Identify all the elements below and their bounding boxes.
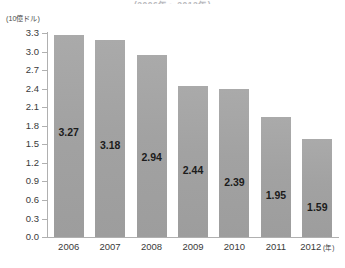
chart-title-cropped: (2006年〜2012年) (0, 0, 345, 4)
y-tick-label: 0.9 (0, 176, 39, 186)
bar-value-label: 2.39 (218, 177, 250, 188)
y-tick-mark (42, 70, 48, 71)
y-tick-mark (42, 144, 48, 145)
y-tick-label: 1.5 (0, 139, 39, 149)
x-axis-unit-label: (年) (321, 244, 334, 251)
y-tick-label: 3.3 (0, 28, 39, 38)
x-tick-label: 2006 (48, 242, 90, 252)
bar-value-label: 2.94 (136, 152, 168, 163)
y-tick-label: 1.2 (0, 158, 39, 168)
y-tick-mark (42, 52, 48, 53)
x-tick-label: 2012 (年) (291, 242, 343, 252)
bar (302, 139, 332, 237)
x-tick-label: 2009 (172, 242, 214, 252)
y-tick-mark (42, 163, 48, 164)
y-tick-label: 2.1 (0, 102, 39, 112)
x-axis-line (47, 237, 339, 238)
bar-value-label: 1.95 (260, 190, 292, 201)
bar (178, 86, 208, 237)
chart-title-text: (2006年〜2012年) (134, 0, 211, 4)
y-tick-label: 3.0 (0, 47, 39, 57)
y-axis-line (47, 32, 48, 238)
y-tick-label: 1.8 (0, 121, 39, 131)
y-tick-mark (42, 237, 48, 238)
y-tick-label: 0.6 (0, 195, 39, 205)
bar-value-label: 2.44 (177, 165, 209, 176)
bar-value-label: 3.27 (53, 127, 85, 138)
y-axis-unit-label: (10億ドル) (6, 13, 40, 23)
y-tick-mark (42, 89, 48, 90)
y-tick-mark (42, 181, 48, 182)
bar-chart: (2006年〜2012年) (10億ドル) 3.33.02.72.42.11.8… (0, 0, 345, 268)
bar-value-label: 3.18 (94, 140, 126, 151)
x-tick-label: 2010 (213, 242, 255, 252)
y-tick-label: 2.4 (0, 84, 39, 94)
bar (137, 55, 167, 237)
bar-value-label: 1.59 (301, 202, 333, 213)
x-tick-label: 2007 (89, 242, 131, 252)
y-tick-label: 0.0 (0, 232, 39, 242)
x-tick-label: 2008 (131, 242, 173, 252)
y-tick-mark (42, 107, 48, 108)
bar (219, 89, 249, 237)
y-tick-label: 2.7 (0, 65, 39, 75)
bar (261, 117, 291, 238)
y-tick-label: 0.3 (0, 214, 39, 224)
y-tick-mark (42, 219, 48, 220)
y-tick-mark (42, 200, 48, 201)
y-tick-mark (42, 126, 48, 127)
y-tick-mark (42, 33, 48, 34)
